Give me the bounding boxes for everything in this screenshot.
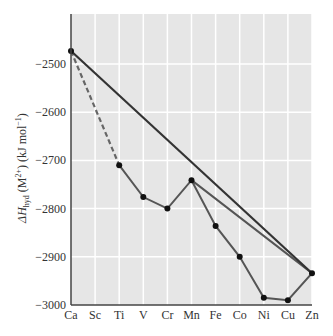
data-point-marker [213,223,219,229]
data-point-marker [261,295,267,301]
x-tick-label: Sc [89,308,101,322]
x-tick-label: Ca [64,308,78,322]
data-point-marker [164,206,170,212]
x-tick-label: Ni [258,308,271,322]
y-axis-label: ΔHhyd (M2+) (kJ mol−1) [14,113,31,224]
x-tick-label: Ti [114,308,125,322]
data-point-marker [309,270,315,276]
x-axis-ticks: CaScTiVCrMnFeCoNiCuZn [64,308,318,322]
x-tick-label: Co [233,308,247,322]
hydration-enthalpy-chart: −2500−2600−2700−2800−2900−3000 CaScTiVCr… [0,0,333,336]
y-tick-label: −2700 [35,153,66,167]
y-tick-label: −2900 [35,250,66,264]
data-point-marker [285,297,291,303]
data-point-marker [189,177,195,183]
y-axis-ticks: −2500−2600−2700−2800−2900−3000 [35,57,66,312]
y-tick-label: −2800 [35,202,66,216]
data-point-marker [237,254,243,260]
x-tick-label: Cr [161,308,173,322]
data-point-marker [140,194,146,200]
y-tick-label: −2500 [35,57,66,71]
data-point-marker [116,162,122,168]
y-tick-label: −2600 [35,105,66,119]
x-tick-label: V [139,308,148,322]
x-tick-label: Mn [183,308,200,322]
x-tick-label: Cu [281,308,295,322]
y-tick-label: −3000 [35,298,66,312]
x-tick-label: Zn [305,308,318,322]
x-tick-label: Fe [210,308,222,322]
